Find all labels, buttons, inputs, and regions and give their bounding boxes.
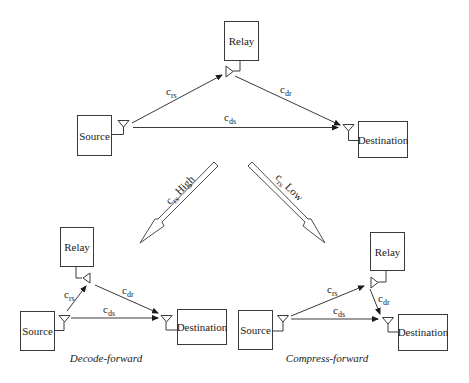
- source-antenna-icon: [118, 121, 129, 128]
- cf-caption: Compress-forward: [286, 352, 369, 364]
- cf-relay-node: Relay: [371, 233, 405, 289]
- label-crs: crs: [166, 85, 177, 100]
- link-source-relay: [132, 75, 222, 123]
- link-relay-destination: [235, 76, 340, 125]
- destination-antenna-icon: [343, 125, 354, 132]
- decode-forward-diagram: Relay Source Destination crs cdr cds Dec…: [21, 228, 228, 365]
- compress-forward-diagram: Relay Source Destination crs cdr cds Com…: [239, 233, 449, 365]
- cf-source-antenna-feed: [273, 322, 283, 331]
- cf-label-crs: crs: [327, 283, 338, 298]
- cf-relay-antenna-feed: [378, 271, 386, 282]
- relay-label: Relay: [229, 35, 255, 47]
- top-source-node: Source: [78, 116, 130, 156]
- df-source-antenna-feed: [55, 322, 64, 331]
- df-destination-label: Destination: [177, 321, 228, 333]
- hollow-arrow-right-icon: [248, 162, 325, 243]
- df-source-node: Source: [21, 312, 71, 351]
- df-relay-antenna-icon: [83, 273, 90, 283]
- cf-source-node: Source: [239, 311, 289, 350]
- relay-antenna-feed: [233, 61, 240, 71]
- cf-label-cdr: cdr: [378, 292, 390, 307]
- cf-source-antenna-icon: [278, 316, 289, 323]
- label-cds: cds: [224, 111, 236, 126]
- relay-antenna-icon: [226, 66, 233, 77]
- cf-label-cds: cds: [333, 304, 345, 319]
- cf-destination-node: Destination: [383, 315, 449, 351]
- df-label-cdr: cdr: [122, 284, 134, 299]
- df-caption: Decode-forward: [69, 352, 143, 364]
- df-destination-node: Destination: [161, 310, 228, 345]
- df-destination-antenna-feed: [166, 322, 177, 330]
- df-label-crs: crs: [64, 288, 75, 303]
- df-relay-label: Relay: [64, 241, 90, 253]
- df-destination-antenna-icon: [161, 316, 172, 323]
- relay-strategy-diagram: Relay Source Destination crs cdr cds: [0, 0, 469, 383]
- top-diagram: Relay Source Destination crs cdr cds: [78, 22, 409, 158]
- cf-relay-antenna-icon: [371, 277, 378, 288]
- df-relay-antenna-feed: [76, 267, 82, 278]
- cf-destination-antenna-feed: [388, 324, 398, 332]
- cf-destination-antenna-icon: [383, 318, 394, 325]
- df-relay-node: Relay: [61, 228, 94, 284]
- branch-arrow-high: crs High: [140, 162, 218, 243]
- source-antenna-feed: [112, 127, 124, 135]
- source-label: Source: [79, 130, 110, 142]
- top-relay-node: Relay: [225, 22, 259, 78]
- df-source-antenna-icon: [59, 316, 70, 323]
- label-cdr: cdr: [280, 83, 292, 98]
- cf-source-label: Source: [240, 324, 271, 336]
- cf-destination-label: Destination: [398, 326, 449, 338]
- destination-label: Destination: [358, 134, 409, 146]
- df-source-label: Source: [22, 325, 53, 337]
- destination-antenna-feed: [349, 131, 359, 141]
- top-destination-node: Destination: [343, 122, 409, 158]
- branch-arrow-low: crs Low: [248, 162, 325, 243]
- df-label-cds: cds: [103, 303, 115, 318]
- cf-relay-label: Relay: [375, 246, 401, 258]
